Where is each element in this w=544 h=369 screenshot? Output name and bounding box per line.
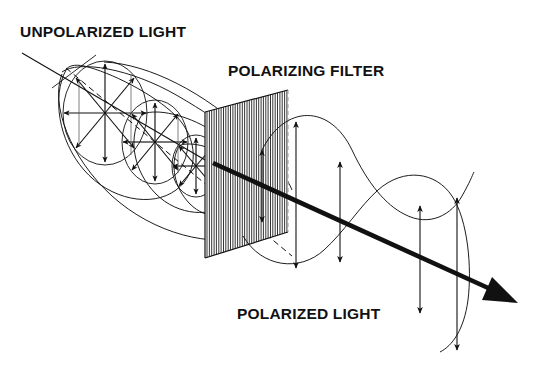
diagram-canvas: UNPOLARIZED LIGHT POLARIZING FILTER POLA…: [0, 0, 544, 369]
polarized-sine-upper: [262, 116, 474, 220]
propagation-axis-incoming: [22, 53, 212, 164]
polarization-diagram: UNPOLARIZED LIGHT POLARIZING FILTER POLA…: [0, 0, 544, 369]
label-polarizing-filter: POLARIZING FILTER: [228, 62, 384, 79]
label-polarized-light: POLARIZED LIGHT: [237, 305, 381, 322]
label-unpolarized-light: UNPOLARIZED LIGHT: [20, 23, 186, 40]
